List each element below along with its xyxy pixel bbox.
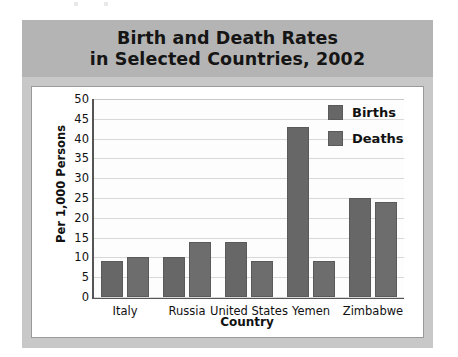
y-tick-label-40: 40 [74, 132, 89, 146]
chart-title-line-2: in Selected Countries, 2002 [90, 49, 365, 70]
bar-deaths-italy [127, 257, 149, 297]
legend-swatch-deaths [328, 131, 343, 146]
bar-group: United States [218, 99, 280, 297]
legend-swatch-births [328, 105, 343, 120]
y-tick-label-20: 20 [74, 211, 89, 225]
chart-title-banner: Birth and Death Rates in Selected Countr… [22, 20, 433, 77]
bar-births-russia [163, 257, 185, 297]
y-tick-label-50: 50 [74, 92, 89, 106]
plot-panel: Per 1,000 Persons 05101520253035404550 I… [31, 86, 424, 338]
bar-deaths-yemen [313, 261, 335, 297]
chart-legend: BirthsDeaths [328, 105, 404, 157]
bar-deaths-zimbabwe [375, 202, 397, 297]
chart-figure: Birth and Death Rates in Selected Countr… [0, 0, 458, 357]
bar-group: Italy [94, 99, 156, 297]
legend-label-births: Births [352, 105, 396, 120]
y-tick-label-30: 30 [74, 171, 89, 185]
x-axis-label: Country [92, 315, 402, 329]
y-tick-label-10: 10 [74, 250, 89, 264]
y-tick-label-25: 25 [74, 191, 89, 205]
chart-title-line-1: Birth and Death Rates [117, 28, 338, 49]
legend-item-deaths[interactable]: Deaths [328, 131, 404, 146]
bar-births-united-states [225, 242, 247, 297]
bar-births-zimbabwe [349, 198, 371, 297]
bar-group: Russia [156, 99, 218, 297]
scan-artifact [104, 2, 108, 6]
bar-births-italy [101, 261, 123, 297]
y-tick-label-45: 45 [74, 112, 89, 126]
legend-label-deaths: Deaths [352, 131, 404, 146]
y-tick-label-35: 35 [74, 151, 89, 165]
bar-deaths-united-states [251, 261, 273, 297]
legend-item-births[interactable]: Births [328, 105, 404, 120]
chart-card: Birth and Death Rates in Selected Countr… [22, 20, 433, 348]
y-axis-label: Per 1,000 Persons [54, 109, 68, 259]
y-tick-label-5: 5 [82, 270, 89, 284]
scan-artifact [74, 2, 78, 6]
gridline-0 [94, 297, 404, 298]
y-tick-label-0: 0 [82, 290, 89, 304]
bar-deaths-russia [189, 242, 211, 297]
y-tick-label-15: 15 [74, 231, 89, 245]
bar-births-yemen [287, 127, 309, 297]
